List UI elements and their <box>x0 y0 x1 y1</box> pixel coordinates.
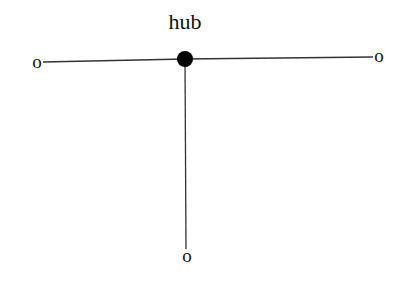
edge-hub-left <box>43 59 185 62</box>
edge-hub-bottom <box>185 59 186 249</box>
edge-hub-right <box>185 57 373 59</box>
leaf-bottom-label: o <box>182 245 192 266</box>
hub-node <box>177 51 193 67</box>
hub-label: hub <box>169 9 202 34</box>
leaf-left-label: o <box>32 51 42 72</box>
star-diagram: hub o o o <box>0 0 412 308</box>
leaf-right-label: o <box>374 45 384 66</box>
